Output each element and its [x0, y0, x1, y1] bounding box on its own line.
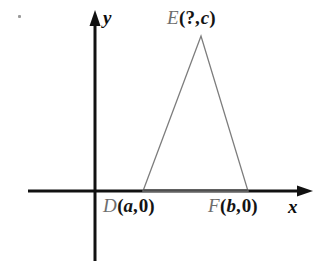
y-axis-arrowhead: [90, 10, 101, 26]
coordinate-diagram: E(?,c) D(a,0) F(b,0) x y: [0, 0, 332, 272]
x-axis-label: x: [288, 197, 298, 216]
label-point-e-close-paren: ): [209, 7, 215, 28]
x-axis-arrowhead: [297, 186, 313, 197]
label-point-e-x: ?: [185, 7, 195, 28]
label-point-d: D(a,0): [103, 196, 155, 215]
diagram-canvas: [0, 0, 332, 272]
label-point-e: E(?,c): [167, 8, 215, 27]
label-point-f-y: 0: [242, 195, 252, 216]
label-point-d-x: a: [124, 195, 134, 216]
label-point-f-x: b: [226, 195, 236, 216]
label-point-f-close-paren: ): [251, 195, 257, 216]
label-point-e-name: E: [167, 7, 179, 28]
triangle-def: [143, 36, 248, 191]
label-point-f: F(b,0): [208, 196, 258, 215]
y-axis-label: y: [103, 8, 111, 27]
label-point-d-close-paren: ): [148, 195, 154, 216]
label-point-e-y: c: [201, 7, 209, 28]
label-point-f-name: F: [208, 195, 220, 216]
label-point-d-y: 0: [139, 195, 149, 216]
label-point-d-name: D: [103, 195, 117, 216]
